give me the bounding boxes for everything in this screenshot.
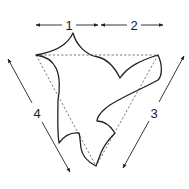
measure-3: 3 <box>123 56 184 168</box>
diagram-canvas: 1 2 4 3 <box>0 0 189 189</box>
shape-outline <box>36 33 161 166</box>
label-1: 1 <box>65 18 72 33</box>
measure-2: 2 <box>101 18 163 33</box>
measure-4: 4 <box>8 59 70 172</box>
label-3: 3 <box>150 106 157 121</box>
measure-1: 1 <box>36 18 98 33</box>
label-4: 4 <box>33 106 40 121</box>
dashed-guides <box>36 55 158 166</box>
label-2: 2 <box>130 18 137 33</box>
